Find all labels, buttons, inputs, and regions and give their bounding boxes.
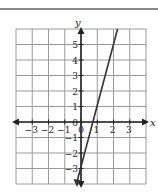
y-tick-label: 5 — [72, 40, 78, 50]
y-tick-label: 2 — [72, 87, 78, 97]
x-tick-label: 0 — [78, 125, 84, 135]
y-tick-label: −1 — [65, 133, 78, 143]
plotted-line — [73, 29, 117, 187]
y-tick-label: −2 — [65, 149, 78, 159]
coordinate-plane: −3−2−101230−3−2−112345 x y — [0, 0, 158, 193]
x-tick-label: 3 — [126, 125, 132, 135]
y-tick-label: 3 — [72, 71, 78, 81]
x-axis-label: x — [150, 117, 156, 128]
x-tick-label: 1 — [93, 125, 99, 135]
x-tick-label: −2 — [41, 125, 54, 135]
y-tick-label: 1 — [72, 102, 78, 112]
origin-label: 0 — [72, 118, 78, 128]
y-axis-label: y — [74, 17, 81, 28]
y-tick-label: −3 — [65, 164, 79, 174]
y-axis-up-arrow-icon — [78, 27, 85, 34]
y-tick-label: 4 — [72, 56, 78, 66]
x-tick-label: −3 — [25, 125, 39, 135]
x-tick-label: 2 — [110, 125, 116, 135]
